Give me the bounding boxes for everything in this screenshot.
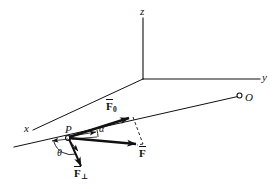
angle-theta-label: θ	[57, 148, 62, 158]
z-axis-label: z	[140, 6, 144, 17]
point-O-marker	[237, 93, 242, 98]
x-axis-label: x	[24, 123, 29, 134]
vector-F-perpendicular-base: F	[74, 168, 81, 179]
vector-F-resultant	[69, 138, 136, 144]
force-diagram-figure: z y x P O α θ F0 F F⊥	[0, 0, 278, 189]
angle-alpha-arc	[97, 130, 98, 137]
y-axis-label: y	[262, 72, 267, 83]
vector-F-zero-label: F0	[106, 101, 117, 114]
plane-far-edge	[14, 96, 240, 147]
diagram-canvas	[0, 0, 278, 189]
inclined-plane-edges	[14, 96, 240, 147]
construction-dashed-lines	[133, 117, 143, 145]
vector-F-resultant-label: F	[139, 148, 146, 161]
vector-F-perpendicular-subscript: ⊥	[81, 172, 88, 181]
point-O-label: O	[245, 92, 253, 103]
point-markers	[66, 93, 243, 141]
point-P-label: P	[65, 124, 72, 135]
vector-F-zero-subscript: 0	[113, 105, 117, 114]
vector-F-perpendicular	[69, 139, 81, 166]
vector-F-resultant-base: F	[139, 148, 146, 159]
angle-alpha-label: α	[99, 124, 104, 134]
vector-F-perpendicular-label: F⊥	[74, 168, 88, 181]
dashed-F-zero-to-F	[133, 117, 143, 144]
vector-F-zero-base: F	[106, 101, 113, 112]
coordinate-axes	[33, 18, 260, 130]
angle-theta-leader-left	[52, 139, 68, 141]
x-axis-line	[33, 79, 143, 130]
